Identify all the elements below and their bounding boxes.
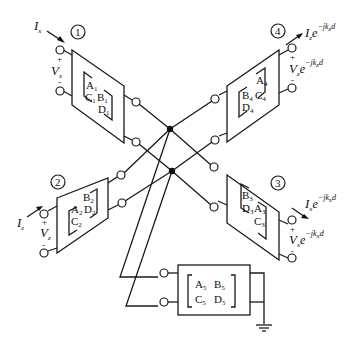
network-2-body [57,178,108,253]
wire-n4-top-to-junction-a [170,101,212,129]
network-3-input-terminal-bottom[interactable] [210,203,218,211]
port-2-number: 2 [55,176,61,188]
port-3-voltage-label: Vxe−jkxd [289,229,325,249]
port-4-minus: - [291,75,294,85]
network-1-output-terminal-bottom[interactable] [132,138,140,146]
port-2-minus: - [42,240,45,250]
wire-junction-b-to-n3-bottom [172,171,211,205]
network-2: B2 A2 D2 C2 [57,178,108,253]
port-4-terminal-top[interactable] [288,44,296,52]
network-5-input-terminal-bottom[interactable] [160,298,168,306]
port-4-current-label: Ize−jkzd [304,22,336,42]
port-1-number: 1 [75,26,81,38]
network-4: A4 B4 C4 D4 [227,50,279,142]
port-1-terminal-top[interactable] [56,46,64,54]
junction-b [169,168,175,174]
port-4-arrowhead-icon [296,33,303,39]
wire-n1-bottom-to-junction-b [139,144,172,171]
port-1-voltage-label: Vx [51,63,63,80]
port-1-arrowhead-icon [57,36,65,43]
port-4-number: 4 [275,25,281,37]
network-4-input-terminal-bottom[interactable] [211,136,219,144]
network-5-input-terminal-top[interactable] [160,269,168,277]
network-3: B3 D3 A3 C3 [227,175,279,260]
network-1-output-terminal-top[interactable] [132,98,140,106]
wire-junction-a-to-network-5-top [120,129,170,277]
network-3-B: B3 [242,189,253,203]
network-5: A5 B5 C5 D5 [160,265,272,331]
network-5-output-short [250,273,264,324]
wire-junction-b-to-n2-bottom [125,171,172,201]
port-1-terminal-bottom[interactable] [56,87,64,95]
network-2-output-terminal-bottom[interactable] [118,199,126,207]
ground-icon [256,325,272,331]
network-2-output-terminal-top[interactable] [117,171,125,179]
port-2-terminal-bottom[interactable] [40,249,48,257]
port-3-minus: - [291,246,294,256]
port-4-voltage-label: Vze−jkzd [289,58,324,78]
network-3-input-terminal-top[interactable] [210,163,218,171]
port-1-current-label: Ix [33,18,42,35]
network-4-body [227,50,279,142]
port-3-terminal-top[interactable] [288,216,296,224]
port-1-minus: - [58,77,61,87]
wire-n4-bottom-to-junction-b [172,142,212,171]
circuit-diagram: A1 C1 B1 D1 Ix 1 + Vx - A4 B4 C4 D4 4 Iz… [0,0,359,350]
port-4-terminal-bottom[interactable] [288,84,296,92]
junction-a [167,126,173,132]
network-4-input-terminal-top[interactable] [211,95,219,103]
wire-n1-top-to-junction-a [139,104,170,129]
network-3-body [227,175,279,260]
port-2-current-arrow [27,209,39,217]
port-3-number: 3 [275,177,281,189]
network-1: A1 C1 B1 D1 [72,50,124,143]
port-3-current-label: Ixe−jkxd [304,193,337,213]
port-2-current-label: Iz [16,215,24,232]
